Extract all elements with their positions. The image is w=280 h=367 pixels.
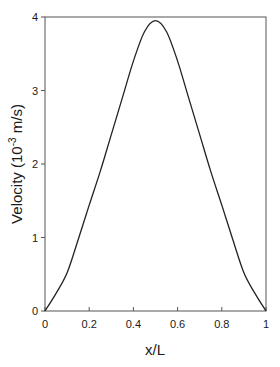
x-tick-label: 0	[42, 318, 48, 330]
y-axis-title-unit: m/s)	[8, 104, 25, 137]
y-tick-label: 0	[32, 305, 38, 317]
x-tick-label: 0.4	[126, 318, 141, 330]
y-axis-ticks: 01234	[32, 11, 45, 317]
velocity-chart: 00.20.40.60.81 01234 x/L Velocity (10-3 …	[0, 0, 280, 367]
y-axis-title: Velocity (10-3 m/s)	[7, 104, 25, 224]
x-axis-ticks: 00.20.40.60.81	[42, 307, 269, 330]
x-axis-title: x/L	[145, 341, 165, 358]
y-tick-label: 1	[32, 232, 38, 244]
plot-frame	[45, 17, 266, 311]
x-tick-label: 0.8	[214, 318, 229, 330]
y-axis-title-main: Velocity (10	[8, 146, 25, 224]
x-tick-label: 0.2	[82, 318, 97, 330]
y-tick-label: 2	[32, 158, 38, 170]
velocity-curve	[45, 21, 266, 311]
x-tick-label: 1	[263, 318, 269, 330]
y-tick-label: 3	[32, 85, 38, 97]
y-tick-label: 4	[32, 11, 38, 23]
x-tick-label: 0.6	[170, 318, 185, 330]
